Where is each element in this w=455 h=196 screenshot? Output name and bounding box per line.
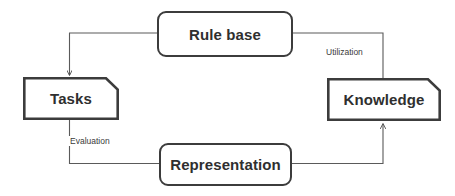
edge-label-evaluation: Evaluation <box>68 136 112 146</box>
edge-rule-base-to-tasks <box>70 33 158 75</box>
node-tasks[interactable]: Tasks <box>23 77 119 120</box>
diagram-canvas: Rule base Tasks Knowledge Representation… <box>0 0 455 196</box>
edge-label-utilization: Utilization <box>324 47 365 57</box>
node-knowledge-label: Knowledge <box>344 92 425 107</box>
node-knowledge[interactable]: Knowledge <box>327 78 441 121</box>
node-rule-base[interactable]: Rule base <box>157 11 293 57</box>
node-rule-base-label: Rule base <box>189 27 261 42</box>
node-tasks-label: Tasks <box>50 91 92 106</box>
node-representation-label: Representation <box>170 157 281 172</box>
edge-representation-to-knowledge <box>292 124 383 164</box>
node-representation[interactable]: Representation <box>159 143 292 186</box>
